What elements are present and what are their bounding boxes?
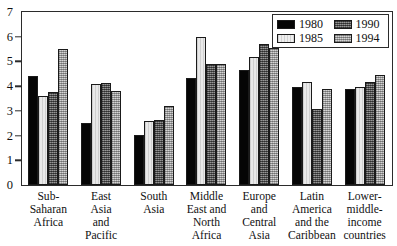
- bar: [48, 92, 58, 185]
- bar-group: [22, 12, 75, 185]
- bar-group: [75, 12, 128, 185]
- legend-swatch-icon: [334, 20, 352, 29]
- x-tick-label: Middle East and North Africa: [180, 190, 233, 242]
- legend-entry: 1990: [334, 18, 385, 30]
- bar: [38, 96, 48, 185]
- legend-swatch-icon: [334, 34, 352, 43]
- bar: [186, 78, 196, 185]
- bar-group: [180, 12, 233, 185]
- bar: [28, 76, 38, 185]
- y-tick-label: 6: [7, 30, 13, 43]
- x-tick-label: Lower- middle- income countries: [338, 190, 391, 242]
- y-tick-label: 4: [7, 80, 13, 93]
- y-tick-label: 0: [7, 179, 13, 192]
- x-axis: Sub- Saharan AfricaEast Asia and Pacific…: [22, 190, 391, 246]
- x-tick-label: South Asia: [127, 190, 180, 216]
- bar: [81, 123, 91, 185]
- y-tick-label: 3: [7, 105, 13, 118]
- bar: [375, 75, 385, 185]
- x-tick-label: Latin America and the Caribbean: [286, 190, 339, 242]
- x-tick-label: Sub- Saharan Africa: [22, 190, 75, 229]
- y-tick-label: 2: [7, 129, 13, 142]
- legend-entry: 1980: [277, 18, 328, 30]
- y-axis: 01234567: [0, 0, 21, 246]
- bar: [322, 89, 332, 185]
- bar: [302, 82, 312, 185]
- bar: [216, 64, 226, 185]
- bar: [91, 84, 101, 185]
- legend-label: 1985: [299, 32, 323, 44]
- bar: [345, 89, 355, 185]
- bar: [239, 70, 249, 185]
- y-tick-label: 5: [7, 55, 13, 68]
- bar: [196, 37, 206, 185]
- x-tick-label: East Asia and Pacific: [75, 190, 128, 242]
- y-tick-label: 1: [7, 154, 13, 167]
- bar: [355, 87, 365, 185]
- bar: [259, 44, 269, 185]
- bar: [101, 83, 111, 185]
- bar: [154, 120, 164, 185]
- legend-label: 1980: [299, 18, 323, 30]
- legend-label: 1990: [356, 18, 380, 30]
- bar: [292, 87, 302, 185]
- bar: [144, 121, 154, 185]
- x-tick-label: Europe and Central Asia: [233, 190, 286, 242]
- bar: [164, 106, 174, 185]
- bar: [312, 109, 322, 185]
- legend-swatch-icon: [277, 34, 295, 43]
- legend-entry: 1994: [334, 32, 385, 44]
- bar: [249, 57, 259, 186]
- bar: [111, 91, 121, 185]
- bar: [365, 82, 375, 185]
- y-tick-label: 7: [7, 6, 13, 19]
- legend-entry: 1985: [277, 32, 328, 44]
- legend-label: 1994: [356, 32, 380, 44]
- legend: 1980199019851994: [272, 14, 389, 48]
- bar: [58, 49, 68, 185]
- bar: [269, 48, 279, 185]
- bar-chart-figure: 01234567 1980199019851994 Sub- Saharan A…: [0, 0, 397, 246]
- bar: [134, 135, 144, 185]
- legend-swatch-icon: [277, 20, 295, 29]
- bar-group: [127, 12, 180, 185]
- bar: [206, 64, 216, 185]
